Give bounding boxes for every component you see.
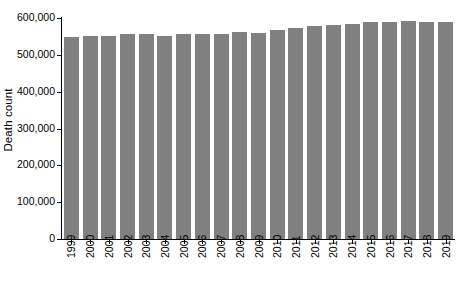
x-axis-tick-label: 2001 — [103, 246, 115, 280]
y-axis-tick-mark — [57, 165, 61, 166]
bar — [307, 26, 322, 239]
bar — [401, 21, 416, 239]
bar-chart: Death count 0100,000200,000300,000400,00… — [0, 0, 456, 282]
bar — [176, 34, 191, 239]
y-axis-tick-mark — [57, 129, 61, 130]
bar — [232, 32, 247, 239]
x-axis-tick-label: 2006 — [196, 246, 208, 280]
bar — [270, 30, 285, 239]
x-axis-tick-label: 2000 — [84, 246, 96, 280]
y-axis-tick-label: 100,000 — [17, 195, 55, 207]
x-axis-tick-label: 2012 — [309, 246, 321, 280]
x-axis-tick-label: 2008 — [234, 246, 246, 280]
x-axis-tick-label: 1999 — [65, 246, 77, 280]
y-axis-tick-mark — [57, 92, 61, 93]
bar — [438, 22, 453, 239]
y-axis-tick-label: 600,000 — [17, 11, 55, 23]
bar — [83, 36, 98, 239]
bar — [195, 34, 210, 239]
y-axis-tick-mark — [57, 55, 61, 56]
x-axis-tick-label: 2002 — [122, 246, 134, 280]
x-axis-tick-label: 2017 — [402, 246, 414, 280]
x-axis-tick-label: 2004 — [159, 246, 171, 280]
y-axis-tick-label: 400,000 — [17, 85, 55, 97]
x-axis-tick-label: 2005 — [178, 246, 190, 280]
y-axis-tick-mark — [57, 18, 61, 19]
bar — [101, 36, 116, 239]
bar — [326, 25, 341, 239]
x-axis-tick-label: 2013 — [327, 246, 339, 280]
x-axis-tick-label: 2019 — [440, 246, 452, 280]
bar — [288, 28, 303, 239]
bar — [120, 34, 135, 239]
y-axis-tick-label: 500,000 — [17, 48, 55, 60]
bar — [345, 24, 360, 239]
x-axis-tick-label: 2018 — [421, 246, 433, 280]
bar — [157, 36, 172, 239]
y-axis-title: Death count — [0, 0, 16, 240]
bar — [419, 22, 434, 239]
x-axis-tick-label: 2015 — [365, 246, 377, 280]
y-axis-tick-label: 0 — [49, 232, 55, 244]
x-axis-tick-label: 2010 — [271, 246, 283, 280]
x-axis-tick-label: 2016 — [384, 246, 396, 280]
x-axis-tick-label: 2011 — [290, 246, 302, 280]
bar — [251, 33, 266, 239]
y-axis-title-label: Death count — [2, 88, 14, 151]
x-axis-tick-label: 2003 — [140, 246, 152, 280]
y-axis-tick-label: 300,000 — [17, 122, 55, 134]
x-axis-tick-label: 2007 — [215, 246, 227, 280]
bar — [214, 34, 229, 239]
plot-area: 0100,000200,000300,000400,000500,000600,… — [62, 18, 455, 239]
y-axis-tick-mark — [57, 202, 61, 203]
bar — [139, 34, 154, 239]
bar — [363, 22, 378, 239]
x-axis-tick-label: 2014 — [346, 246, 358, 280]
x-axis-tick-label: 2009 — [253, 246, 265, 280]
bar — [64, 37, 79, 239]
y-axis-tick-label: 200,000 — [17, 158, 55, 170]
y-axis-tick-mark — [57, 239, 61, 240]
bar — [382, 22, 397, 239]
